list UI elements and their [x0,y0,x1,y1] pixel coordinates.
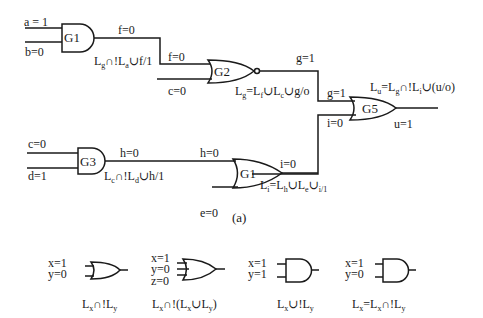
g1-top-equation: Lg∩!La∪f/1 [94,55,152,69]
legend-2-equation: Lx∩!(Lx∪Ly) [152,298,217,312]
wire-i-label: i=0 [327,117,343,129]
legend-4-equation: Lx=Lx∩!Ly [352,298,405,312]
legend-1-input-y: y=0 [48,268,67,280]
legend-and-1 [286,259,312,282]
output-g: g=1 [296,52,315,64]
input-c-g2: c=0 [168,85,186,97]
input-a: a = 1 [24,16,48,28]
output-f: f=0 [118,24,135,36]
g5-equation: Lu=Lg∩!Li∪(u/o) [370,81,455,95]
output-i: i=0 [280,158,296,170]
legend-and-2 [383,259,409,282]
g1-bottom-name: G1 [240,167,256,180]
input-c-g3: c=0 [28,138,46,150]
wire-h-label: h=0 [200,147,219,159]
circuit-diagram [0,0,483,318]
g1-bottom-equation: Li=Lh∪Le∪i/1 [260,179,327,193]
legend-or-2 [91,262,120,279]
legend-2-input-z: z=0 [151,275,169,287]
g3-equation: Lc∩!Ld∪h/1 [104,170,164,184]
g1-top-name: G1 [64,31,80,44]
g3-name: G3 [80,155,96,168]
output-h: h=0 [120,147,139,159]
g2-name: G2 [214,65,230,78]
figure-caption: (a) [232,210,246,226]
output-u: u=1 [394,118,413,130]
wire-f-label: f=0 [168,51,185,63]
input-b: b=0 [25,46,44,58]
legend-3-equation: Lx∪!Ly [277,298,314,312]
legend-3-input-y: y=1 [248,268,267,280]
legend-1-equation: Lx∩!Ly [82,298,117,312]
input-e: e=0 [200,207,218,219]
wire-g-label: g=1 [327,87,346,99]
g5-name: G5 [362,102,378,115]
g2-equation: Lg=Lf∪Lc∪g/o [235,85,309,99]
input-d: d=1 [28,170,47,182]
legend-4-input-y: y=0 [345,268,364,280]
